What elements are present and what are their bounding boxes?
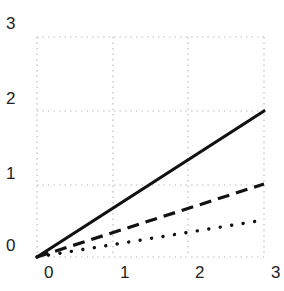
y-axis: 3 2 1 0 xyxy=(6,14,15,255)
y-tick-label: 3 xyxy=(6,14,15,33)
x-axis: 0 1 2 3 xyxy=(44,263,280,282)
series-dotted xyxy=(37,220,264,257)
x-tick-label: 0 xyxy=(44,263,53,282)
y-tick-label: 1 xyxy=(6,164,15,183)
grid xyxy=(37,37,264,257)
line-chart: 3 2 1 0 0 1 2 3 xyxy=(0,0,284,291)
series-lines xyxy=(37,111,264,257)
y-tick-label: 2 xyxy=(6,89,15,108)
x-tick-label: 1 xyxy=(120,263,129,282)
series-dashed xyxy=(37,184,264,257)
y-tick-label: 0 xyxy=(6,236,15,255)
x-tick-label: 2 xyxy=(195,263,204,282)
x-tick-label: 3 xyxy=(271,263,280,282)
series-solid xyxy=(37,111,264,257)
